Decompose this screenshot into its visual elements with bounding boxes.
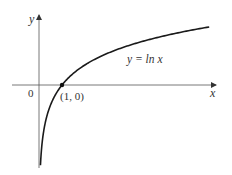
ln-graph: y x 0 (1, 0) y = ln x: [0, 0, 232, 175]
curve-label: y = ln x: [126, 53, 163, 66]
point-marker: [60, 83, 64, 87]
x-axis-label: x: [209, 86, 216, 100]
point-label: (1, 0): [60, 90, 84, 103]
y-axis-label: y: [28, 12, 35, 26]
origin-label: 0: [28, 87, 34, 99]
